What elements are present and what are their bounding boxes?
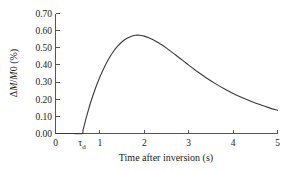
axis-spines	[56, 14, 278, 134]
tau-subscript: d	[82, 143, 86, 151]
y-tick-label: 0.00	[35, 129, 52, 139]
x-tick-label: 3	[186, 138, 191, 148]
y-tick-label: 0.20	[35, 95, 52, 105]
x-axis-tick-labels: 0 1 2 3 4 5	[53, 138, 280, 148]
y-axis-title: ΔM/M0 (%)	[8, 49, 20, 97]
y-axis-ticks	[56, 14, 60, 134]
y-tick-label: 0.30	[35, 77, 52, 87]
y-axis-tick-labels: 0.70 0.60 0.50 0.40 0.30 0.20 0.10 0.00	[35, 9, 52, 139]
x-tick-label: 2	[142, 138, 147, 148]
x-tick-label: 1	[98, 138, 103, 148]
figure-container: 0.70 0.60 0.50 0.40 0.30 0.20 0.10 0.00 …	[0, 0, 284, 171]
svg-text:τd: τd	[78, 138, 86, 151]
y-tick-label: 0.40	[35, 60, 52, 70]
chart-plot: 0.70 0.60 0.50 0.40 0.30 0.20 0.10 0.00 …	[0, 0, 284, 171]
y-tick-label: 0.70	[35, 9, 52, 19]
data-series-line	[56, 35, 278, 134]
y-tick-label: 0.10	[35, 112, 52, 122]
x-tick-label: 0	[53, 138, 58, 148]
x-axis-ticks	[56, 130, 278, 134]
y-title-unit: (%)	[8, 49, 20, 67]
y-tick-label: 0.60	[35, 26, 52, 36]
x-tick-label: 4	[231, 138, 236, 148]
tau-d-annotation: τd	[78, 138, 86, 151]
x-tick-label: 5	[275, 138, 280, 148]
x-axis-title: Time after inversion (s)	[119, 152, 213, 164]
y-tick-label: 0.50	[35, 43, 52, 53]
